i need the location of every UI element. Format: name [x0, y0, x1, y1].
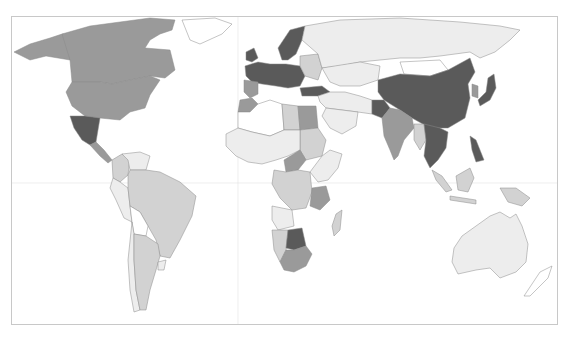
region-sudan[interactable]: Sudan	[300, 128, 326, 160]
region-congo[interactable]: Congo	[272, 170, 312, 210]
region-korea[interactable]: Korea	[472, 84, 478, 98]
region-russia[interactable]: Russia	[302, 18, 520, 68]
region-canada[interactable]: Canada	[62, 18, 175, 84]
region-borneo[interactable]: Borneo	[456, 168, 474, 192]
region-indonesia-java[interactable]: Borneo	[450, 196, 476, 204]
region-uk[interactable]: Western Europe	[246, 48, 258, 62]
region-argentina[interactable]: Argentina	[134, 234, 160, 310]
region-mexico[interactable]: Mexico	[70, 116, 100, 145]
region-greenland[interactable]: Greenland	[182, 18, 232, 44]
region-angola[interactable]: Angola	[272, 206, 294, 230]
region-new-zealand[interactable]: New Zealand	[524, 266, 552, 296]
region-myanmar[interactable]: Myanmar	[414, 124, 426, 150]
region-australia[interactable]: Australia	[452, 212, 528, 278]
region-saudi-arabia[interactable]: Saudi Arabia	[322, 108, 358, 134]
region-uruguay[interactable]: Uruguay	[158, 260, 166, 270]
region-papua-new-guinea[interactable]: Papua New Guinea	[500, 188, 530, 206]
region-madagascar[interactable]: Madagascar	[332, 210, 342, 236]
region-philippines[interactable]: Philippines	[470, 136, 484, 162]
region-egypt[interactable]: Egypt	[298, 106, 318, 130]
region-central-america[interactable]: Central America	[90, 142, 112, 163]
region-botswana[interactable]: Botswana	[286, 228, 306, 250]
region-scandinavia[interactable]: Scandinavia	[278, 26, 305, 60]
world-map[interactable]: Alaska Canada United States Greenland Me…	[0, 0, 569, 341]
region-indonesia-sumatra[interactable]: Borneo	[432, 170, 452, 192]
region-iberia[interactable]: Iberia	[244, 80, 258, 98]
region-japan[interactable]: Japan	[478, 74, 496, 106]
region-libya[interactable]: Libya	[282, 104, 300, 130]
region-tanzania[interactable]: Tanzania	[310, 186, 330, 210]
region-southeast-asia[interactable]: Southeast Asia	[424, 124, 448, 168]
